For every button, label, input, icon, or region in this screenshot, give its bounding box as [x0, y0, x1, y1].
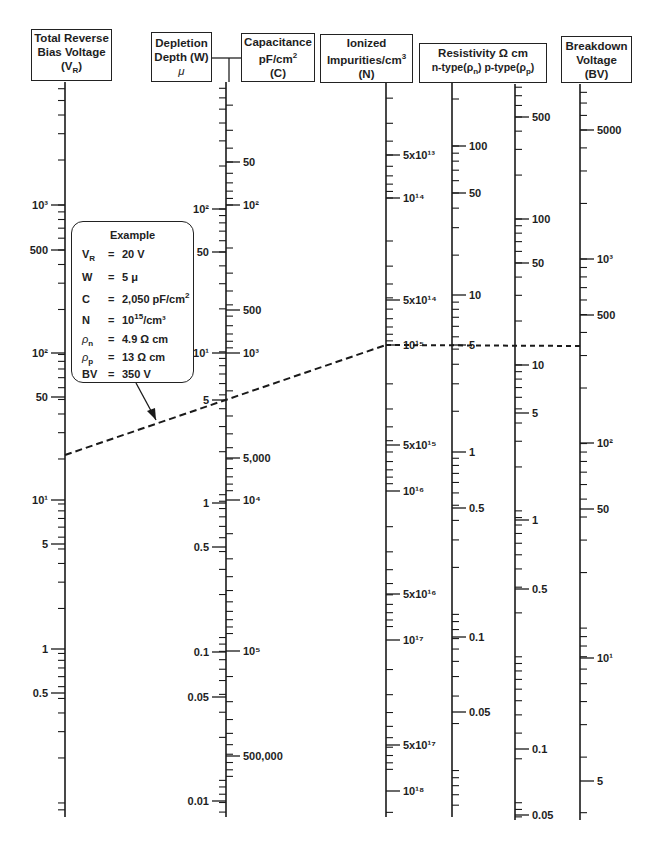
rho_p-tick-label: 1 — [532, 514, 538, 526]
w-header-line1: Depletion — [152, 36, 211, 50]
axes-group — [65, 58, 580, 820]
rho_p-tick-label: 10 — [532, 359, 544, 371]
vr-tick-label: 500 — [30, 244, 48, 256]
c-tick-label: 500 — [243, 304, 261, 316]
w-tick-label: 0.01 — [188, 795, 209, 807]
rho_p-tick-label: 100 — [532, 213, 550, 225]
symbol-text: W — [82, 271, 92, 283]
vr-header-symbol: (V — [61, 60, 73, 72]
bv-header-line1: Breakdown — [562, 39, 631, 53]
tick-labels-group: 10³50010²5010¹510.510²5010¹510.50.10.050… — [30, 111, 622, 821]
example-symbol: C — [82, 293, 108, 305]
n-header-unit: Impurities/cm — [327, 54, 402, 66]
rho_n-tick-label: 10 — [469, 289, 481, 301]
example-symbol: VR — [82, 248, 108, 263]
n-tick-label: 5x10¹³ — [403, 149, 435, 161]
symbol-sub: n — [88, 339, 93, 348]
symbol-text: C — [82, 293, 90, 305]
example-value: 350 V — [122, 368, 151, 380]
vr-tick-label: 1 — [42, 643, 48, 655]
rho_n-tick-label: 100 — [469, 140, 487, 152]
vr-header-line3: (VR) — [32, 59, 111, 78]
nomograph-canvas: 10³50010²5010¹510.510²5010¹510.50.10.050… — [0, 0, 652, 847]
n-tick-label: 5x10¹⁴ — [403, 294, 437, 306]
example-arrow-head-icon — [147, 408, 156, 420]
n-header-line1: Ionized — [321, 36, 412, 50]
vr-header-close: ) — [78, 60, 82, 72]
symbol-sub: p — [88, 357, 93, 366]
example-row-c: C=2,050 pF/cm2 — [82, 291, 189, 305]
w-tick-label: 10² — [193, 203, 209, 215]
example-row-w: W=5 μ — [82, 271, 138, 283]
header-ionized-impurities: Ionized Impurities/cm3 (N) — [320, 34, 413, 83]
example-value: 20 V — [122, 248, 145, 260]
header-resistivity: Resistivity Ω cm n-type(ρn) p-type(ρp) — [419, 43, 547, 83]
equals-sign: = — [108, 368, 122, 380]
rho-n-type-label: n-type(ρ — [432, 61, 474, 73]
rho_n-tick-label: 50 — [469, 187, 481, 199]
w-tick-label: 10¹ — [193, 347, 209, 359]
example-value: 4.9 Ω cm — [122, 333, 168, 345]
symbol-text: BV — [82, 368, 97, 380]
rho_p-tick-label: 0.5 — [532, 583, 547, 595]
vr-tick-label: 10² — [32, 347, 48, 359]
vr-tick-label: 10¹ — [32, 494, 48, 506]
c-tick-label: 10² — [243, 199, 259, 211]
n-tick-label: 10¹⁶ — [403, 485, 424, 497]
example-value: 13 Ω cm — [122, 351, 165, 363]
c-tick-label: 10³ — [243, 347, 259, 359]
rho_p-tick-label: 0.1 — [532, 743, 547, 755]
example-row-vr: VR=20 V — [82, 248, 145, 263]
bv-tick-label: 5 — [597, 775, 603, 787]
bv-tick-label: 10² — [597, 437, 613, 449]
equals-sign: = — [108, 248, 122, 260]
rho_p-tick-label: 50 — [532, 257, 544, 269]
example-row-bv: BV=350 V — [82, 368, 151, 380]
rho_p-tick-label: 500 — [532, 111, 550, 123]
c-header-line1: Capacitance — [242, 35, 314, 49]
bv-header-line2: Voltage — [562, 53, 631, 67]
rho_p-tick-label: 0.05 — [532, 809, 553, 821]
rho-header-line1: Resistivity Ω cm — [420, 46, 546, 60]
w-tick-label: 1 — [203, 497, 209, 509]
n-tick-label: 10¹⁴ — [403, 192, 424, 204]
example-symbol: W — [82, 271, 108, 283]
equals-sign: = — [108, 314, 122, 326]
vr-header-line1: Total Reverse — [32, 31, 111, 45]
w-tick-label: 0.05 — [188, 691, 209, 703]
vr-tick-label: 10³ — [32, 199, 48, 211]
rho_n-tick-label: 0.1 — [469, 631, 484, 643]
w-tick-label: 5 — [203, 394, 209, 406]
rho_p-tick-label: 5 — [532, 407, 538, 419]
c-header-line2: pF/cm2 — [242, 49, 314, 66]
c-tick-label: 10⁴ — [243, 494, 261, 506]
c-tick-label: 10⁵ — [243, 645, 260, 657]
c-tick-label: 500,000 — [243, 750, 283, 762]
equals-sign: = — [108, 293, 122, 305]
c-header-sup: 2 — [293, 51, 297, 60]
n-header-line3: (N) — [321, 67, 412, 81]
example-dashed-line-n-to-bv — [386, 345, 580, 346]
n-tick-label: 5x10¹⁷ — [403, 739, 436, 751]
equals-sign: = — [108, 351, 122, 363]
example-row-rho-n: ρn=4.9 Ω cm — [82, 333, 168, 348]
example-symbol: BV — [82, 368, 108, 380]
w-tick-label: 0.1 — [194, 646, 209, 658]
header-depletion-depth: Depletion Depth (W) μ — [151, 32, 212, 82]
bv-header-line3: (BV) — [562, 67, 631, 81]
ticks-group — [51, 87, 594, 817]
example-box: Example VR=20 V W=5 μ C=2,050 pF/cm2 N=1… — [71, 221, 194, 383]
example-sup: 2 — [185, 291, 189, 300]
example-row-n: N=1015/cm³ — [82, 312, 166, 326]
bv-tick-label: 10¹ — [597, 652, 613, 664]
vr-tick-label: 0.5 — [33, 687, 48, 699]
rho_n-tick-label: 0.05 — [469, 706, 490, 718]
w-header-line2: Depth (W) — [152, 50, 211, 64]
header-breakdown-voltage: Breakdown Voltage (BV) — [561, 36, 632, 83]
example-row-rho-p: ρp=13 Ω cm — [82, 351, 165, 366]
bv-tick-label: 5000 — [597, 124, 621, 136]
n-tick-label: 5x10¹⁶ — [403, 588, 436, 600]
bv-tick-label: 50 — [597, 503, 609, 515]
example-symbol: N — [82, 314, 108, 326]
example-unit: /cm³ — [143, 314, 166, 326]
